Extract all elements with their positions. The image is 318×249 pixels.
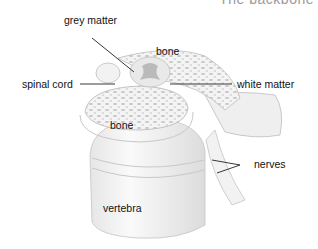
label-white-matter: white matter: [237, 79, 294, 90]
label-vertebra: vertebra: [103, 203, 142, 214]
spine-diagram: The backbone: [0, 0, 318, 249]
transverse-process: [205, 93, 282, 206]
vertebra-illustration: [0, 0, 318, 249]
label-grey-matter: grey matter: [64, 15, 117, 26]
label-nerves: nerves: [254, 159, 286, 170]
vertebral-body: [90, 118, 205, 238]
label-bone-top: bone: [156, 46, 179, 57]
label-spinal-cord: spinal cord: [22, 79, 73, 90]
label-bone-middle: bone: [110, 120, 133, 131]
spinal-cord: [130, 57, 170, 87]
